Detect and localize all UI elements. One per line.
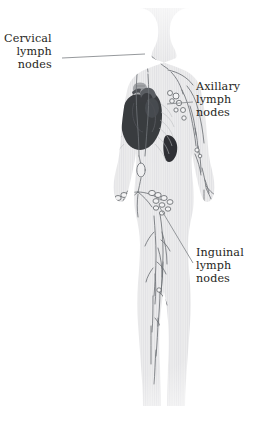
- inguinal-lymph-nodes-left: [109, 190, 133, 215]
- lymphatic-system-figure: Cervical lymph nodes Axillary lymph node…: [0, 0, 279, 434]
- label-cervical-lymph-nodes: Cervical lymph nodes: [4, 32, 52, 72]
- label-cervical-line-2: lymph: [4, 45, 52, 58]
- axillary-lymph-nodes-left: [97, 91, 116, 121]
- label-axillary-lymph-nodes: Axillary lymph nodes: [196, 80, 240, 120]
- leader-line-cervical: [62, 54, 145, 58]
- label-inguinal-lymph-nodes: Inguinal lymph nodes: [196, 246, 244, 286]
- label-axillary-line-3: nodes: [196, 106, 240, 119]
- label-inguinal-line-2: lymph: [196, 259, 244, 272]
- label-axillary-line-1: Axillary: [196, 80, 240, 93]
- label-cervical-line-3: nodes: [4, 58, 52, 71]
- label-axillary-line-2: lymph: [196, 93, 240, 106]
- label-inguinal-line-1: Inguinal: [196, 246, 244, 259]
- label-cervical-line-1: Cervical: [4, 32, 52, 45]
- label-inguinal-line-3: nodes: [196, 272, 244, 285]
